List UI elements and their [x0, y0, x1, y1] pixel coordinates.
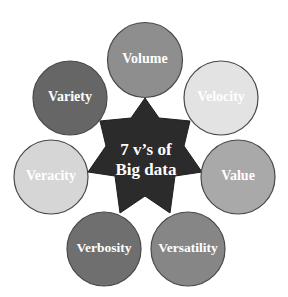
- big-data-diagram: Volume Velocity Value Versatility Verbos…: [0, 0, 288, 297]
- node-variety: Variety: [33, 61, 107, 135]
- node-variety-label: Variety: [48, 89, 92, 104]
- node-value-label: Value: [221, 168, 255, 183]
- node-volume-label: Volume: [122, 51, 167, 66]
- node-verbosity-label: Verbosity: [76, 240, 131, 255]
- node-versatility-label: Versatility: [158, 240, 218, 255]
- node-value: Value: [201, 140, 275, 214]
- node-velocity-label: Velocity: [197, 89, 245, 104]
- node-veracity: Veracity: [14, 140, 88, 214]
- node-veracity-label: Veracity: [26, 168, 76, 183]
- node-verbosity: Verbosity: [67, 212, 141, 286]
- center-title-line2: Big data: [116, 160, 177, 179]
- node-versatility: Versatility: [151, 212, 225, 286]
- node-velocity: Velocity: [184, 61, 258, 135]
- center-title-line1: 7 v’s of: [120, 140, 172, 159]
- node-volume: Volume: [108, 23, 183, 98]
